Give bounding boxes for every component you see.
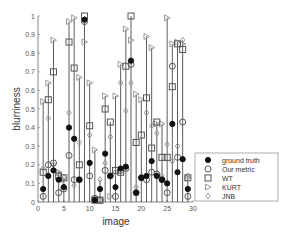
stems (43, 16, 188, 202)
ground-truth-marker (159, 177, 164, 182)
ground-truth-marker (46, 173, 51, 178)
ground-truth-marker (175, 170, 180, 175)
y-tick-label: 0.5 (25, 106, 35, 113)
x-tick-label: 20 (137, 205, 145, 212)
legend-label: KURT (222, 184, 242, 191)
legend-label: WT (222, 175, 234, 182)
ground-truth-marker (103, 151, 108, 156)
ground-truth-marker (123, 164, 128, 169)
ground-truth-marker (149, 158, 154, 163)
legend-label: Our metric (222, 166, 255, 173)
x-axis-label: image (102, 216, 130, 227)
legend-label: ground truth (222, 157, 260, 165)
y-tick-label: 1 (31, 13, 35, 20)
ground-truth-marker (77, 177, 82, 182)
ground-truth-marker (87, 160, 92, 165)
y-tick-label: 0.7 (25, 68, 35, 75)
ground-truth-marker (118, 166, 123, 171)
x-tick-label: 5 (62, 205, 66, 212)
x-tick-label: 15 (112, 205, 120, 212)
ground-truth-marker (72, 136, 77, 141)
ground-truth-marker (97, 186, 102, 191)
y-tick-label: 0.8 (25, 50, 35, 57)
y-tick-label: 0 (31, 199, 35, 206)
y-tick-label: 0.4 (25, 124, 35, 131)
ground-truth-marker (134, 190, 139, 195)
ground-truth-marker (154, 173, 159, 178)
y-tick-label: 0.9 (25, 31, 35, 38)
ground-truth-marker (108, 173, 113, 178)
ground-truth-marker (41, 186, 46, 191)
blurriness-chart: 05101520253000.10.20.30.40.50.60.70.80.9… (0, 0, 284, 237)
y-tick-label: 0.2 (25, 161, 35, 168)
x-tick-label: 10 (86, 205, 94, 212)
y-tick-label: 0.6 (25, 87, 35, 94)
ground-truth-marker (51, 168, 56, 173)
ground-truth-marker (56, 177, 61, 182)
x-tick-label: 0 (36, 205, 40, 212)
ground-truth-marker (170, 121, 175, 126)
ground-truth-marker (82, 17, 87, 22)
y-tick-label: 0.1 (25, 180, 35, 187)
legend: ground truthOur metricWTKURTJNB (195, 153, 278, 201)
x-tick-label: 30 (189, 205, 197, 212)
ground-truth-marker (66, 125, 71, 130)
ground-truth-marker (165, 181, 170, 186)
y-axis-label: blurriness (11, 87, 22, 130)
ground-truth-marker (144, 173, 149, 178)
legend-label: JNB (222, 193, 236, 200)
y-tick-label: 0.3 (25, 143, 35, 150)
legend-filled-circle-icon (205, 157, 210, 162)
ground-truth-marker (139, 175, 144, 180)
ground-truth-marker (113, 185, 118, 190)
x-tick-label: 25 (163, 205, 171, 212)
ground-truth-marker (61, 185, 66, 190)
ground-truth-marker (180, 157, 185, 162)
ground-truth-marker (92, 198, 97, 203)
ground-truth-marker (128, 58, 133, 63)
ground-truth-marker (185, 186, 190, 191)
